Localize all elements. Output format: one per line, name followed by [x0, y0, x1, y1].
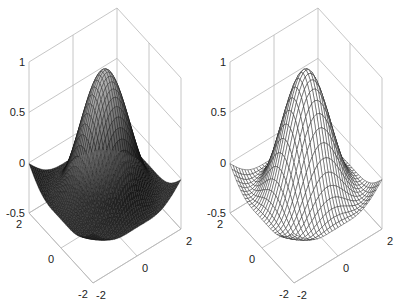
filled-surface: [29, 69, 181, 241]
z-tick-label: 0.5: [211, 106, 226, 118]
z-tick-label: 0: [220, 157, 226, 169]
x-tick-label: -2: [96, 289, 106, 301]
x-tick-label: -2: [297, 289, 307, 301]
plot-canvas: 10.50-0.520-2-202: [0, 0, 201, 305]
z-tick-label: 1: [19, 56, 25, 68]
surface-plot-wireframe: 10.50-0.520-2-202: [201, 0, 402, 305]
x-tick-label: 0: [343, 262, 349, 274]
z-tick-label: 0: [19, 157, 25, 169]
y-tick-label: 0: [48, 253, 54, 265]
y-tick-label: -2: [279, 288, 289, 300]
surface-plot-filled: 10.50-0.520-2-202: [0, 0, 201, 305]
x-tick-label: 0: [142, 262, 148, 274]
z-tick-label: 0.5: [10, 106, 25, 118]
y-tick-label: -2: [78, 288, 88, 300]
x-tick-label: 2: [186, 235, 192, 247]
x-tick-label: 2: [387, 235, 393, 247]
z-tick-label: 1: [220, 56, 226, 68]
y-tick-label: 0: [249, 253, 255, 265]
wireframe-surface: [230, 69, 382, 241]
y-tick-label: 2: [217, 218, 223, 230]
y-tick-label: 2: [16, 218, 22, 230]
plot-canvas: 10.50-0.520-2-202: [201, 0, 402, 305]
